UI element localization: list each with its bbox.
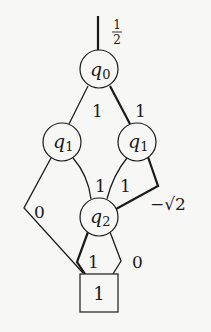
edge-label-q1-left-q2: 1 — [95, 176, 106, 196]
root-weight: 1 2 — [112, 18, 122, 47]
edge-label-q2-terminal-left: 1 — [88, 252, 99, 272]
edge-q0-q1-left — [69, 86, 88, 124]
edge-label-q1-right-q2-alt: −√2 — [150, 194, 186, 214]
node-q2: q2 — [80, 198, 118, 236]
node-q1-left: q1 — [43, 123, 81, 161]
node-q0: q0 — [80, 50, 118, 88]
svg-text:2: 2 — [113, 33, 121, 47]
svg-text:1: 1 — [113, 18, 121, 32]
svg-text:1: 1 — [93, 283, 104, 304]
edge-label-q2-terminal-right: 0 — [132, 252, 143, 272]
edge-label-q0-q1-left: 1 — [92, 101, 103, 121]
terminal-node: 1 — [80, 274, 118, 312]
node-q1-right: q1 — [118, 123, 156, 161]
edge-label-q1-right-q2: 1 — [120, 176, 131, 196]
edge-q1-left-terminal — [24, 158, 83, 273]
edge-label-q1-left-terminal: 0 — [34, 202, 45, 222]
edge-q0-q1-right — [110, 86, 130, 124]
edge-q1-left-q2 — [73, 158, 91, 199]
edge-label-q0-q1-right: 1 — [135, 101, 146, 121]
decision-diagram: 1 2 1 1 1 0 1 −√2 1 0 q0 q1 q1 q2 1 — [0, 0, 211, 332]
edge-q2-terminal-right — [110, 232, 121, 274]
